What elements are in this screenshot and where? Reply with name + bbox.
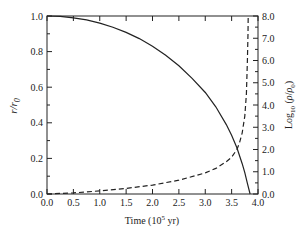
y-right-tick-label: 7.0: [262, 33, 275, 44]
y-left-tick-label: 0.8: [31, 46, 44, 57]
x-axis-label: Time (105 yr): [125, 214, 179, 227]
x-tick-label: 0.5: [67, 197, 80, 208]
radius-curve: [47, 16, 250, 194]
y-right-tick-label: 4.0: [262, 100, 275, 111]
y-right-tick-label: 8.0: [262, 11, 275, 22]
y-right-tick-label: 1.0: [262, 166, 275, 177]
chart: 0.00.51.01.52.02.53.03.54.0 0.00.20.40.6…: [0, 0, 306, 233]
y-left-tick-label: 0.4: [31, 117, 44, 128]
density-curve: [47, 16, 248, 194]
x-tick-label: 3.0: [199, 197, 212, 208]
y-left-tick-label: 0.6: [31, 82, 44, 93]
x-tick-label: 3.5: [225, 197, 238, 208]
x-tick-label: 2.5: [173, 197, 186, 208]
y-right-tick-label: 6.0: [262, 55, 275, 66]
y-axis-right-label: Log10 (ρ/ρ0): [283, 81, 297, 129]
y-right-tick-label: 0.0: [262, 189, 275, 200]
y-axis-left-label: r/r0: [7, 98, 22, 114]
x-tick-label: 1.5: [120, 197, 133, 208]
x-tick-label: 2.0: [146, 197, 159, 208]
y-axis-left: 0.00.20.40.60.81.0: [31, 11, 53, 200]
x-axis: 0.00.51.01.52.02.53.03.54.0: [41, 16, 265, 208]
plot-area: [47, 16, 250, 194]
y-axis-right: 0.01.02.03.04.05.06.07.08.0: [253, 11, 275, 200]
y-right-tick-label: 5.0: [262, 77, 275, 88]
y-left-tick-label: 0.2: [31, 153, 44, 164]
y-right-tick-label: 2.0: [262, 144, 275, 155]
plot-frame: [47, 16, 258, 194]
y-left-tick-label: 0.0: [31, 189, 44, 200]
y-right-tick-label: 3.0: [262, 122, 275, 133]
y-left-tick-label: 1.0: [31, 11, 44, 22]
x-tick-label: 1.0: [94, 197, 107, 208]
